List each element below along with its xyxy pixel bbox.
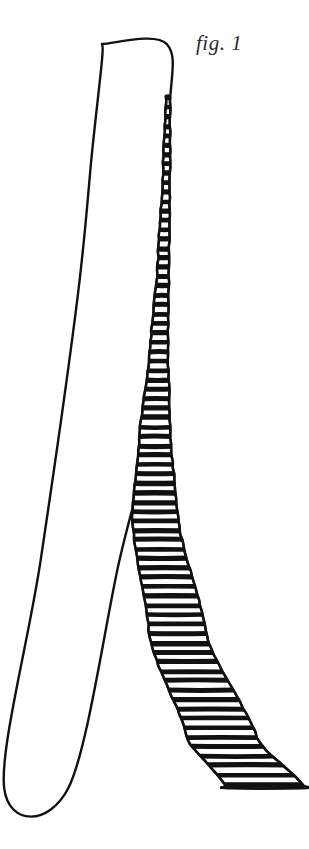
figure-container: fig. 1 bbox=[0, 0, 309, 849]
figure-drawing bbox=[0, 0, 309, 849]
figure-caption: fig. 1 bbox=[196, 33, 242, 54]
